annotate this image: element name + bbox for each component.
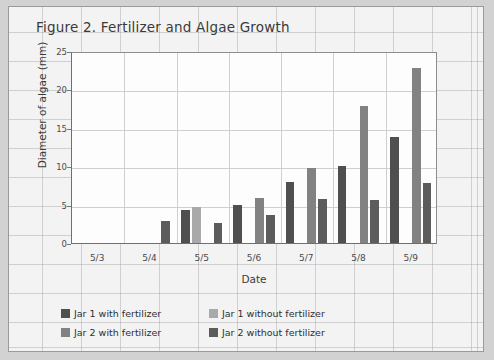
chart-legend: Jar 1 with fertilizerJar 1 without ferti… [61,309,421,349]
bar [423,183,432,243]
y-tick-label: 5 [37,202,67,211]
y-tick-label: 0 [37,240,67,249]
bar [255,198,264,243]
x-tick-label: 5/3 [71,253,123,263]
legend-label: Jar 1 with fertilizer [74,309,161,319]
bar [390,137,399,243]
bar [307,168,316,243]
bar [360,106,369,243]
bar-chart: Figure 2. Fertilizer and Algae Growth 05… [9,7,484,352]
plot-area [71,52,437,244]
bar [161,221,170,243]
bar [192,207,201,243]
x-tick-label: 5/7 [280,253,332,263]
legend-swatch [61,309,70,318]
figure-card: Figure 2. Fertilizer and Algae Growth 05… [8,6,484,352]
bar [370,200,379,243]
bar [214,223,223,243]
legend-swatch [61,328,70,337]
legend-swatch [209,328,218,337]
legend-label: Jar 2 with fertilizer [74,328,161,338]
legend-label: Jar 1 without fertilizer [222,309,325,319]
x-tick-label: 5/9 [385,253,437,263]
bar [412,68,421,243]
x-tick-label: 5/4 [123,253,175,263]
chart-title: Figure 2. Fertilizer and Algae Growth [36,19,290,35]
x-tick-label: 5/6 [228,253,280,263]
bar [338,166,347,243]
x-axis-ticks: 5/35/45/55/65/75/85/9 [71,253,437,267]
bar [286,182,295,243]
legend-swatch [209,309,218,318]
legend-item: Jar 2 without fertilizer [209,328,325,338]
bar [266,215,275,243]
bar [233,205,242,243]
y-tick-mark [67,244,71,245]
bar [181,210,190,243]
bar [318,199,327,243]
legend-item: Jar 1 without fertilizer [209,309,325,319]
x-axis-label: Date [71,273,437,285]
legend-item: Jar 1 with fertilizer [61,309,161,319]
legend-item: Jar 2 with fertilizer [61,328,161,338]
scanned-page: Figure 2. Fertilizer and Algae Growth 05… [0,0,494,360]
legend-label: Jar 2 without fertilizer [222,328,325,338]
x-tick-label: 5/8 [332,253,384,263]
y-axis-label: Diameter of algae (mm) [36,10,48,200]
bars-layer [72,53,436,243]
x-tick-label: 5/5 [176,253,228,263]
